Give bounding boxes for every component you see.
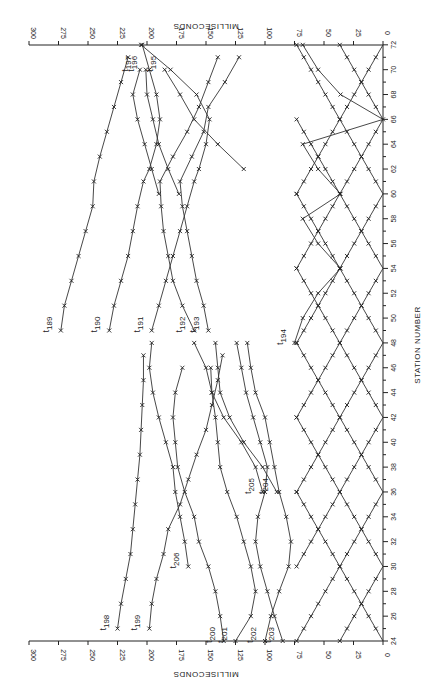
series-t193 bbox=[178, 55, 241, 332]
series-t198 bbox=[116, 353, 146, 630]
chart-canvas: 0025255050757510010012512515015017517520… bbox=[0, 0, 434, 696]
series-t190 bbox=[107, 43, 162, 333]
curve-line bbox=[180, 57, 239, 330]
station-tick-label: 44 bbox=[390, 389, 397, 397]
ms-tick-label-top: 0 bbox=[384, 31, 391, 35]
ms-tick-label-bottom: 175 bbox=[178, 649, 185, 661]
series-t194 bbox=[293, 43, 386, 345]
station-tick-label: 48 bbox=[390, 339, 397, 347]
curve-label-t202: t202 bbox=[245, 627, 258, 643]
ms-tick-label-top: 225 bbox=[119, 27, 126, 39]
station-tick-label: 60 bbox=[390, 190, 397, 198]
station-tick-label: 58 bbox=[390, 215, 397, 223]
series-t189 bbox=[59, 55, 130, 332]
travel-time-curves bbox=[59, 43, 385, 643]
curve-line bbox=[165, 70, 244, 169]
series-t195 bbox=[163, 68, 246, 171]
station-tick-label: 50 bbox=[390, 314, 397, 322]
ms-tick-label-bottom: 250 bbox=[89, 649, 96, 661]
ms-tick-label-bottom: 200 bbox=[148, 649, 155, 661]
ms-tick-label-bottom: 0 bbox=[384, 653, 391, 657]
curve-line bbox=[160, 57, 218, 330]
curve-label-t201: t201 bbox=[216, 627, 229, 643]
y-axis-title-top: MILLISECONDS bbox=[173, 22, 239, 31]
curve-label-t199: t199 bbox=[129, 614, 142, 630]
station-tick-label: 66 bbox=[390, 115, 397, 123]
series-t192 bbox=[158, 55, 220, 332]
ms-tick-label-bottom: 75 bbox=[296, 651, 303, 659]
ms-tick-label-bottom: 225 bbox=[119, 649, 126, 661]
curve-label-t197: t197 bbox=[120, 55, 133, 71]
curve-line bbox=[149, 355, 222, 628]
ms-tick-label-top: 250 bbox=[89, 27, 96, 39]
curve-line bbox=[215, 343, 276, 492]
station-tick-label: 70 bbox=[390, 66, 397, 74]
station-tick-label: 40 bbox=[390, 438, 397, 446]
ms-tick-label-bottom: 100 bbox=[266, 649, 273, 661]
curve-label-t192: t192 bbox=[174, 316, 187, 332]
station-tick-label: 68 bbox=[390, 91, 397, 99]
curve-label-t189: t189 bbox=[41, 316, 54, 332]
curve-label-t191: t191 bbox=[132, 316, 145, 332]
curve-line bbox=[194, 343, 262, 492]
ms-tick-label-top: 25 bbox=[355, 29, 362, 37]
station-tick-label: 42 bbox=[390, 413, 397, 421]
station-tick-label: 52 bbox=[390, 289, 397, 297]
curve-label-t205: t205 bbox=[243, 478, 256, 494]
ms-tick-label-bottom: 50 bbox=[325, 651, 332, 659]
station-tick-label: 24 bbox=[390, 637, 397, 645]
ms-tick-label-top: 75 bbox=[296, 29, 303, 37]
ms-tick-label-top: 200 bbox=[148, 27, 155, 39]
station-tick-label: 62 bbox=[390, 165, 397, 173]
curve-label-t190: t190 bbox=[89, 316, 102, 332]
station-tick-label: 64 bbox=[390, 140, 397, 148]
curve-line bbox=[295, 45, 384, 343]
curve-label-t195: t195 bbox=[145, 55, 158, 71]
station-tick-label: 36 bbox=[390, 488, 397, 496]
ms-tick-label-bottom: 275 bbox=[60, 649, 67, 661]
curve-label-t194: t194 bbox=[275, 329, 288, 345]
curve-line bbox=[118, 355, 144, 628]
station-tick-label: 38 bbox=[390, 463, 397, 471]
station-tick-label: 32 bbox=[390, 538, 397, 546]
curve-label-t203: t203 bbox=[263, 627, 276, 643]
ms-tick-label-bottom: 25 bbox=[355, 651, 362, 659]
curve-line bbox=[149, 343, 188, 567]
ms-tick-label-top: 100 bbox=[266, 27, 273, 39]
station-tick-label: 56 bbox=[390, 240, 397, 248]
curve-line bbox=[146, 70, 179, 194]
station-tick-label: 26 bbox=[390, 612, 397, 620]
curve-label-t204: t204 bbox=[257, 478, 270, 494]
ms-tick-label-top: 50 bbox=[325, 29, 332, 37]
station-tick-label: 28 bbox=[390, 587, 397, 595]
ms-tick-label-top: 275 bbox=[60, 27, 67, 39]
x-axis-title: STATION NUMBER bbox=[413, 306, 422, 383]
station-tick-label: 72 bbox=[390, 41, 397, 49]
ms-tick-label-bottom: 300 bbox=[30, 649, 37, 661]
curve-label-t206: t206 bbox=[168, 552, 181, 568]
station-tick-label: 30 bbox=[390, 562, 397, 570]
series-t206 bbox=[147, 341, 190, 569]
series-t200 bbox=[171, 366, 226, 643]
ms-tick-label-bottom: 150 bbox=[207, 649, 214, 661]
ms-tick-label-bottom: 125 bbox=[237, 649, 244, 661]
station-tick-label: 46 bbox=[390, 364, 397, 372]
ms-tick-label-top: 300 bbox=[30, 27, 37, 39]
station-tick-label: 34 bbox=[390, 513, 397, 521]
curve-label-t193: t193 bbox=[188, 316, 201, 332]
curve-label-t198: t198 bbox=[98, 614, 111, 630]
curve-line bbox=[61, 57, 128, 330]
y-axis-title-bottom: MILLISECONDS bbox=[173, 670, 239, 679]
station-tick-label: 54 bbox=[390, 264, 397, 272]
